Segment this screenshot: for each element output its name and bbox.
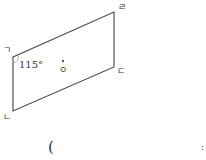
answer-close-mark: : <box>201 142 204 152</box>
center-label: ㅇ <box>59 65 67 75</box>
figure-svg: ㄱ ㄹ ㄷ ㄴ 115° ㅇ ( : <box>0 0 206 160</box>
answer-open-paren: ( <box>48 138 54 156</box>
angle-label: 115° <box>19 59 43 70</box>
parallelogram-figure: ㄱ ㄹ ㄷ ㄴ 115° ㅇ ( : <box>0 0 206 160</box>
center-dot <box>62 60 64 62</box>
vertex-label-bottom-left: ㄴ <box>3 112 11 122</box>
vertex-label-bottom-right: ㄷ <box>117 66 125 76</box>
vertex-label-top-left: ㄱ <box>3 45 11 55</box>
vertex-label-top-right: ㄹ <box>118 2 126 12</box>
